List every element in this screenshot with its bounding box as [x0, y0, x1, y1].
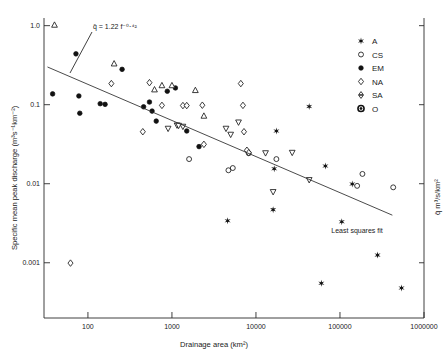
legend-label-SA: SA — [372, 91, 383, 100]
marker-circle-filled — [120, 67, 125, 72]
marker-triangle-down — [228, 132, 234, 137]
marker-circle-filled — [74, 52, 79, 57]
marker-circle-filled — [197, 144, 202, 149]
marker-circle-filled — [78, 111, 83, 116]
legend-item-O[interactable]: O — [358, 105, 378, 114]
y-tick-label: 0.1 — [30, 101, 40, 108]
marker-triangle-up — [192, 87, 198, 92]
marker-triangle-pair — [359, 92, 364, 99]
y-tick-label: 1.0 — [30, 22, 40, 29]
marker-circle-open — [355, 183, 360, 188]
marker-triangle-down — [289, 150, 295, 155]
y-tick-label: 0.001 — [22, 259, 40, 266]
marker-diamond-open — [240, 102, 245, 109]
legend-item-EM[interactable]: EM — [359, 64, 385, 73]
marker-diamond-open — [109, 80, 114, 87]
marker-diamond-open — [159, 102, 164, 109]
marker-diamond-open — [200, 102, 205, 109]
marker-circle-open — [230, 166, 235, 171]
legend-label-NA: NA — [372, 78, 384, 87]
legend-item-NA[interactable]: NA — [358, 78, 383, 87]
marker-circle-filled — [103, 102, 108, 107]
marker-triangle-up — [159, 82, 165, 87]
marker-star — [398, 284, 404, 291]
legend-label-EM: EM — [372, 64, 384, 73]
x-tick-group: 1001000100001000001000000 — [82, 312, 438, 330]
marker-circle-filled — [147, 100, 152, 105]
marker-triangle-up — [52, 22, 58, 27]
marker-circle-filled — [184, 129, 189, 134]
least-squares-fit-label: Least squares fit — [331, 227, 382, 235]
marker-circle-open — [274, 157, 279, 162]
marker-diamond-open — [140, 128, 145, 135]
marker-triangle-up — [169, 82, 175, 87]
marker-star — [306, 103, 312, 110]
legend-item-CS[interactable]: CS — [359, 51, 384, 60]
legend-item-SA[interactable]: SA — [359, 91, 384, 100]
marker-triangle-up — [201, 113, 207, 118]
series-NA — [68, 79, 251, 266]
marker-triangle-down — [223, 126, 229, 131]
legend-item-A[interactable]: A — [358, 37, 378, 46]
marker-circle-open — [360, 171, 365, 176]
marker-diamond-open — [68, 260, 73, 267]
x-tick-label: 10000 — [246, 323, 266, 330]
marker-star — [358, 37, 364, 44]
x-tick-label: 1000000 — [410, 323, 437, 330]
y-tick-label: 0.01 — [26, 180, 40, 187]
marker-circle-open — [359, 52, 364, 57]
series-CS — [187, 151, 396, 190]
marker-star — [375, 252, 381, 259]
marker-triangle-down — [270, 190, 276, 195]
y-tick-group: 1.00.10.010.001 — [22, 22, 50, 266]
chart-canvas: 1.00.10.010.001 100100010000100000100000… — [0, 0, 445, 354]
equation-leader-line — [70, 32, 92, 73]
marker-star — [273, 127, 279, 134]
y-axis-title: Specific mean peak discharge (m³s⁻¹km⁻²) — [10, 105, 19, 250]
marker-circle-open — [187, 157, 192, 162]
marker-diamond-open — [184, 102, 189, 109]
marker-diamond-open — [201, 141, 206, 148]
fit-equation-label: q̄ = 1.22 f⁻⁰⋅⁴² — [93, 23, 137, 31]
marker-triangle-down — [236, 120, 242, 125]
x-tick-label: 100 — [82, 323, 94, 330]
marker-circle-filled — [359, 66, 364, 71]
marker-bullseye — [358, 105, 364, 111]
least-squares-fit-line — [47, 67, 392, 215]
marker-circle-open — [391, 185, 396, 190]
scatter-plot: 1.00.10.010.001 100100010000100000100000… — [0, 0, 445, 354]
marker-star — [225, 217, 231, 224]
legend-label-A: A — [372, 37, 378, 46]
x-tick-label: 1000 — [164, 323, 180, 330]
series-A — [225, 103, 405, 292]
marker-diamond-open — [238, 80, 243, 87]
marker-diamond-open — [358, 78, 363, 85]
marker-circle-filled — [154, 119, 159, 124]
marker-circle-filled — [77, 94, 82, 99]
y-tick-group-right — [419, 26, 424, 263]
marker-star — [271, 165, 277, 172]
marker-triangle-up — [152, 87, 158, 92]
marker-star — [339, 218, 345, 225]
y-axis-right-title: q̄ m³/s/km² — [433, 179, 442, 215]
marker-star — [322, 162, 328, 169]
marker-circle-filled — [50, 92, 55, 97]
marker-star — [318, 280, 324, 287]
marker-triangle-up — [111, 61, 117, 66]
legend-label-O: O — [372, 105, 378, 114]
marker-circle-filled — [165, 89, 170, 94]
marker-diamond-open — [147, 79, 152, 86]
marker-triangle-down — [165, 126, 171, 131]
data-markers — [50, 22, 404, 292]
x-axis-title: Drainage area (km²) — [180, 340, 248, 349]
legend-label-CS: CS — [372, 51, 383, 60]
x-tick-label: 100000 — [328, 323, 351, 330]
marker-triangle-down — [263, 151, 269, 156]
marker-circle-filled — [98, 101, 103, 106]
legend[interactable]: ACSEMNASAO — [358, 37, 384, 114]
marker-star — [270, 206, 276, 213]
marker-diamond-open — [241, 128, 246, 135]
